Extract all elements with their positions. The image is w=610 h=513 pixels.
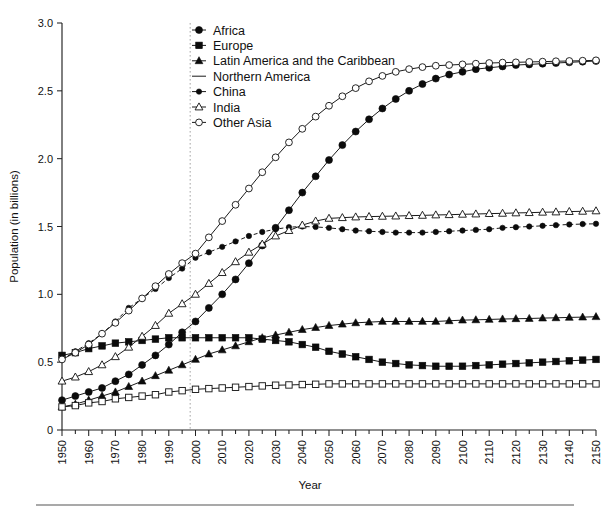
legend-marker-small-filled-circle-icon: [196, 89, 201, 94]
x-tick-label: 2150: [590, 440, 602, 464]
x-tick-label: 2130: [537, 440, 549, 464]
legend-label: Northern America: [213, 70, 310, 84]
legend-item-northern-america[interactable]: Northern America: [192, 70, 310, 84]
series-other-asia: [59, 57, 600, 363]
x-tick-label: 1970: [109, 440, 121, 464]
legend-marker-open-circle-icon: [196, 119, 203, 126]
y-tick-label: 0: [47, 424, 53, 436]
x-tick-label: 1980: [136, 440, 148, 464]
y-tick-label: 0.5: [38, 356, 53, 368]
y-tick-label: 2.5: [38, 85, 53, 97]
y-tick-label: 2.0: [38, 153, 53, 165]
legend-item-africa[interactable]: Africa: [192, 24, 245, 38]
x-axis-ticks: 1950196019701980199020002010202020302040…: [56, 430, 602, 464]
x-tick-label: 2100: [457, 440, 469, 464]
chart-legend: AfricaEuropeLatin America and the Caribb…: [192, 24, 395, 130]
x-tick-label: 2050: [323, 440, 335, 464]
legend-marker-filled-square-icon: [196, 42, 203, 49]
legend-marker-filled-triangle-icon: [195, 57, 203, 64]
series-india: [58, 207, 600, 384]
x-tick-label: 2090: [430, 440, 442, 464]
legend-item-latin-america-and-the-caribbean[interactable]: Latin America and the Caribbean: [192, 54, 395, 68]
y-axis-title: Population (in billions): [8, 170, 20, 283]
legend-item-europe[interactable]: Europe: [192, 39, 253, 53]
x-tick-label: 2060: [350, 440, 362, 464]
x-tick-label: 2140: [563, 440, 575, 464]
legend-label: Europe: [213, 39, 253, 53]
x-tick-label: 2120: [510, 440, 522, 464]
x-tick-label: 2110: [483, 440, 495, 464]
x-tick-label: 1990: [163, 440, 175, 464]
y-tick-label: 3.0: [38, 17, 53, 29]
x-tick-label: 2010: [216, 440, 228, 464]
legend-label: China: [213, 85, 246, 99]
legend-item-china[interactable]: China: [192, 85, 246, 99]
x-tick-label: 2000: [190, 440, 202, 464]
y-tick-label: 1.0: [38, 288, 53, 300]
x-axis-title: Year: [298, 479, 321, 491]
y-axis-ticks: 00.51.01.52.02.53.0: [38, 17, 62, 436]
x-tick-label: 2040: [296, 440, 308, 464]
legend-label: Africa: [213, 24, 245, 38]
x-tick-label: 2080: [403, 440, 415, 464]
legend-label: Other Asia: [213, 116, 271, 130]
legend-marker-filled-circle-icon: [196, 27, 203, 34]
x-tick-label: 1950: [56, 440, 68, 464]
series-markers: [59, 57, 600, 363]
legend-label: India: [213, 101, 240, 115]
x-tick-label: 2030: [270, 440, 282, 464]
population-projection-figure: 00.51.01.52.02.53.0195019601970198019902…: [0, 0, 610, 513]
x-tick-label: 2020: [243, 440, 255, 464]
legend-label: Latin America and the Caribbean: [213, 54, 395, 68]
series-markers: [59, 381, 599, 410]
legend-marker-open-triangle-icon: [195, 103, 203, 110]
legend-item-other-asia[interactable]: Other Asia: [192, 116, 271, 130]
x-tick-label: 2070: [376, 440, 388, 464]
x-tick-label: 1960: [83, 440, 95, 464]
series-markers: [58, 207, 600, 384]
legend-item-india[interactable]: India: [192, 101, 240, 115]
series-northern-america: [59, 381, 599, 410]
chart-canvas: 00.51.01.52.02.53.0195019601970198019902…: [0, 0, 610, 513]
y-tick-label: 1.5: [38, 221, 53, 233]
